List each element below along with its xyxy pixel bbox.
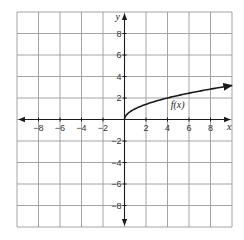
y-tick-label: −8 [111,201,121,211]
y-tick-label: 6 [116,50,121,60]
y-axis-label: y [115,11,121,22]
x-tick-label: 6 [186,123,191,133]
function-label: f(x) [171,99,186,111]
y-tick-label: −2 [111,136,121,146]
x-tick-label: 8 [208,123,213,133]
x-tick-label: 2 [143,123,148,133]
y-tick-label: −4 [111,158,121,168]
x-tick-label: 4 [165,123,170,133]
y-tick-label: 8 [116,29,121,39]
x-tick-label: −4 [76,123,86,133]
x-tick-label: −8 [33,123,43,133]
y-tick-label: 2 [116,93,121,103]
x-axis-label: x [226,121,232,132]
function-graph: −8−6−4−224688642−2−4−6−8 x y f(x) [0,0,244,240]
y-tick-label: −6 [111,179,121,189]
y-tick-label: 4 [116,72,121,82]
x-tick-label: −2 [98,123,108,133]
x-tick-label: −6 [55,123,65,133]
